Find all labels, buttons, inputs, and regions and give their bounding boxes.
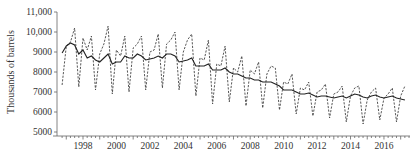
x-tick-label: 1998 bbox=[74, 141, 93, 151]
y-tick-label: 11,000 bbox=[26, 7, 52, 17]
x-tick-label: 2004 bbox=[174, 141, 193, 151]
y-tick-label: 7000 bbox=[33, 87, 52, 97]
x-tick-label: 2014 bbox=[341, 141, 360, 151]
series-trend-line bbox=[62, 43, 405, 100]
x-tick-label: 2016 bbox=[374, 141, 393, 151]
y-tick-label: 8000 bbox=[33, 67, 52, 77]
x-tick-label: 2002 bbox=[140, 141, 159, 151]
line-chart: 5000600070008000900010,00011,000 1998200… bbox=[0, 0, 420, 155]
x-tick-label: 2008 bbox=[241, 141, 260, 151]
x-tick-label: 2000 bbox=[107, 141, 126, 151]
x-tick-label: 2012 bbox=[308, 141, 327, 151]
y-tick-label: 9000 bbox=[33, 47, 52, 57]
x-axis: 1998200020022004200620082010201220142016 bbox=[53, 136, 410, 151]
y-axis-title: Thousands of barrels bbox=[5, 30, 16, 114]
series-actual-line bbox=[62, 26, 405, 124]
x-tick-label: 2006 bbox=[207, 141, 226, 151]
x-tick-label: 2010 bbox=[274, 141, 293, 151]
y-tick-label: 10,000 bbox=[26, 27, 52, 37]
y-tick-label: 5000 bbox=[33, 127, 52, 137]
y-tick-label: 6000 bbox=[33, 107, 52, 117]
y-axis: 5000600070008000900010,00011,000 bbox=[26, 7, 57, 137]
